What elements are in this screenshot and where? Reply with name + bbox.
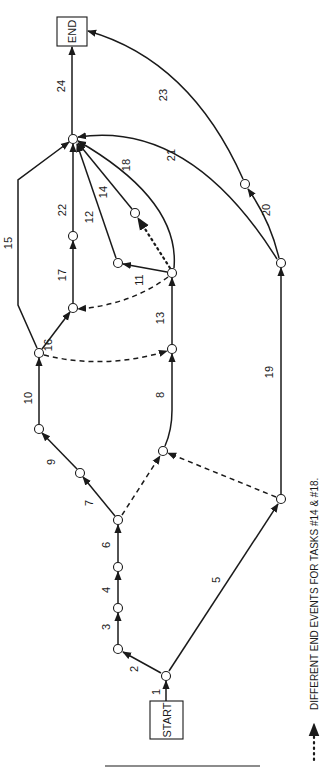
task-label-21: 21 <box>165 149 177 161</box>
event-node-n13 <box>168 269 177 278</box>
event-node-n8t <box>168 345 177 354</box>
task-label-12: 12 <box>83 211 95 223</box>
event-node-n16 <box>69 304 78 313</box>
task-label-7: 7 <box>83 500 95 506</box>
task-edge-7 <box>83 477 115 516</box>
task-label-4: 4 <box>100 587 112 593</box>
task-label-6: 6 <box>100 542 112 548</box>
task-label-2: 2 <box>128 666 140 672</box>
task-label-10: 10 <box>22 392 34 404</box>
task-edge-15 <box>18 142 69 348</box>
event-node-n12 <box>114 259 123 268</box>
network-diagram: ENDSTART 1234679101615172224813111214182… <box>0 0 326 772</box>
dashed-dependency-edge <box>78 277 168 309</box>
dotted-dependency-edge <box>138 218 170 268</box>
event-node-n9 <box>35 425 44 434</box>
start-label: START <box>161 702 173 737</box>
task-label-15: 15 <box>2 237 14 249</box>
task-label-18: 18 <box>120 159 132 171</box>
event-node-n2 <box>114 645 123 654</box>
event-node-n20 <box>241 180 250 189</box>
event-node-n5 <box>277 495 286 504</box>
task-label-23: 23 <box>157 89 169 101</box>
event-node-n17 <box>69 232 78 241</box>
event-nodes <box>35 135 286 681</box>
task-label-24: 24 <box>55 80 67 92</box>
event-node-n4 <box>114 563 123 572</box>
event-node-n6 <box>114 516 123 525</box>
event-node-n19 <box>277 259 286 268</box>
task-label-1: 1 <box>150 689 162 695</box>
event-node-hub <box>69 135 78 144</box>
task-label-5: 5 <box>210 577 222 583</box>
task-label-16: 16 <box>42 339 54 351</box>
dashed-dependency-edge <box>44 351 167 362</box>
dashed-dependency-edge <box>122 456 160 515</box>
legend: DIFFERENT END EVENTS FOR TASKS #14 & #18… <box>309 478 320 760</box>
event-node-n7 <box>76 469 85 478</box>
task-label-11: 11 <box>133 274 145 285</box>
task-labels: 123467910161517222481311121418211920235 <box>2 80 275 695</box>
task-label-14: 14 <box>97 186 109 198</box>
task-label-13: 13 <box>154 312 166 324</box>
task-label-3: 3 <box>100 624 112 630</box>
end-label: END <box>66 20 78 43</box>
task-edge-8 <box>165 354 172 446</box>
task-edge-5 <box>169 504 278 671</box>
dashed-dependency-edge <box>168 453 276 497</box>
legend-text: DIFFERENT END EVENTS FOR TASKS #14 & #18… <box>309 478 320 710</box>
task-label-9: 9 <box>45 459 57 465</box>
event-node-n3 <box>114 604 123 613</box>
event-node-n8b <box>159 447 168 456</box>
task-label-20: 20 <box>260 204 272 216</box>
task-label-17: 17 <box>56 269 68 281</box>
task-edges <box>18 31 281 701</box>
task-edge-11 <box>123 264 167 272</box>
task-label-19: 19 <box>263 366 275 378</box>
event-node-n14 <box>131 209 140 218</box>
task-label-8: 8 <box>154 392 166 398</box>
task-label-22: 22 <box>56 204 68 216</box>
terminal-boxes: ENDSTART <box>57 17 183 739</box>
event-node-n1 <box>162 672 171 681</box>
